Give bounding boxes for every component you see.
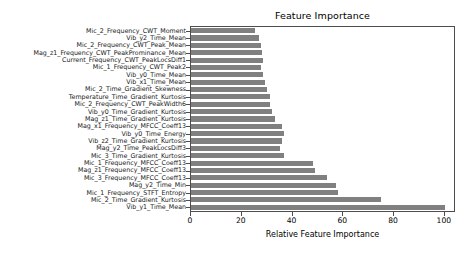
y-tick-label: Mag_z1_Frequency_MFCC_Coeff13	[0, 166, 186, 174]
x-tick-mark	[393, 212, 394, 216]
bar-row	[191, 123, 455, 130]
bar-row	[191, 145, 455, 152]
bar-row	[191, 204, 455, 211]
y-tick-label: Mic_1_Frequency_STFT_Entropy	[0, 188, 186, 196]
y-tick-mark	[186, 31, 190, 32]
x-tick-mark	[241, 212, 242, 216]
y-tick-mark	[186, 193, 190, 194]
bar	[191, 131, 284, 136]
bar-row	[191, 71, 455, 78]
chart-title: Feature Importance	[190, 10, 455, 21]
bar	[191, 124, 282, 129]
y-tick-label: Mic_2_Frequency_CWT_Peak_Mean	[0, 41, 186, 49]
bar	[191, 205, 445, 210]
y-tick-mark	[186, 200, 190, 201]
x-tick-mark	[292, 212, 293, 216]
bar	[191, 153, 284, 158]
y-axis-tick-labels: Mic_2_Frequency_CWT_MomentVib_y2_Time_Me…	[0, 27, 186, 211]
y-tick-mark	[186, 185, 190, 186]
bar	[191, 197, 381, 202]
x-tick-mark	[342, 212, 343, 216]
y-tick-mark	[186, 97, 190, 98]
y-tick-label: Mag_x1_Frequency_MFCC_Coeff13	[0, 122, 186, 130]
y-tick-label: Mic_1_Frequency_CWT_Peak2	[0, 63, 186, 71]
bar-row	[191, 101, 455, 108]
bar-row	[191, 42, 455, 49]
bar-row	[191, 64, 455, 71]
y-tick-mark	[186, 60, 190, 61]
bar-row	[191, 152, 455, 159]
y-tick-mark	[186, 82, 190, 83]
y-tick-mark	[186, 104, 190, 105]
y-tick-label: Mag_y2_Time_PeakLocsDiff3	[0, 144, 186, 152]
y-tick-mark	[186, 75, 190, 76]
bar-row	[191, 79, 455, 86]
bar	[191, 168, 315, 173]
bars-group	[191, 27, 455, 211]
bar	[191, 146, 280, 151]
bar-row	[191, 93, 455, 100]
y-tick-label: Mag_y2_Time_Min	[0, 181, 186, 189]
y-tick-mark	[186, 148, 190, 149]
bar-row	[191, 56, 455, 63]
y-tick-label: Vib_y1_Time_Mean	[0, 203, 186, 211]
x-tick-mark	[190, 212, 191, 216]
y-tick-mark	[186, 126, 190, 127]
bar-row	[191, 182, 455, 189]
x-tick-label: 100	[437, 216, 452, 225]
bar	[191, 102, 270, 107]
bar-row	[191, 196, 455, 203]
y-tick-mark	[186, 67, 190, 68]
bar	[191, 35, 259, 40]
bar	[191, 161, 313, 166]
bar-row	[191, 189, 455, 196]
y-tick-label: Mic_2_Frequency_CWT_Moment	[0, 27, 186, 35]
x-tick-label: 0	[188, 216, 193, 225]
bar-row	[191, 137, 455, 144]
bar-row	[191, 86, 455, 93]
y-tick-label: Vib_y0_Time_Gradient_Kurtosis	[0, 107, 186, 115]
bar	[191, 175, 327, 180]
x-tick-label: 60	[337, 216, 347, 225]
y-tick-mark	[186, 53, 190, 54]
bar-row	[191, 174, 455, 181]
bar-row	[191, 34, 455, 41]
y-tick-mark	[186, 38, 190, 39]
y-tick-mark	[186, 90, 190, 91]
y-tick-mark	[186, 45, 190, 46]
y-tick-label: Mic_2_Time_Gradient_Skewness	[0, 85, 186, 93]
bar-row	[191, 49, 455, 56]
bar	[191, 116, 275, 121]
bar	[191, 183, 336, 188]
y-tick-mark	[186, 171, 190, 172]
bar	[191, 28, 255, 33]
figure-canvas: Feature Importance Mic_2_Frequency_CWT_M…	[0, 0, 471, 254]
y-tick-mark	[186, 207, 190, 208]
y-tick-mark	[186, 178, 190, 179]
bar	[191, 87, 267, 92]
bar	[191, 94, 270, 99]
bar	[191, 109, 272, 114]
bar	[191, 43, 261, 48]
y-tick-label: Mic_2_Frequency_CWT_PeakWidth6	[0, 100, 186, 108]
y-tick-label: Vib_y0_Time_Energy	[0, 130, 186, 138]
bar	[191, 72, 263, 77]
bar-row	[191, 159, 455, 166]
x-tick-label: 20	[236, 216, 246, 225]
bar	[191, 58, 263, 63]
x-tick-label: 80	[388, 216, 398, 225]
bar	[191, 138, 282, 143]
bar-row	[191, 27, 455, 34]
y-tick-mark	[186, 112, 190, 113]
bar-row	[191, 167, 455, 174]
y-tick-mark	[186, 134, 190, 135]
bar-row	[191, 115, 455, 122]
bar	[191, 190, 338, 195]
x-tick-mark	[444, 212, 445, 216]
y-tick-mark	[186, 119, 190, 120]
bar-row	[191, 108, 455, 115]
bar	[191, 80, 265, 85]
x-tick-label: 40	[287, 216, 297, 225]
bar	[191, 65, 261, 70]
y-tick-mark	[186, 163, 190, 164]
